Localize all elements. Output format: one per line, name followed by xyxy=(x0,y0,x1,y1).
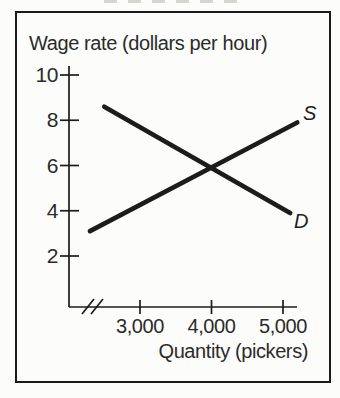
y-tick-label: 4 xyxy=(22,198,58,224)
y-tick-label: 8 xyxy=(22,107,58,133)
demand-curve xyxy=(104,107,290,213)
y-tick-label: 2 xyxy=(22,243,58,269)
figure-panel: Wage rate (dollars per hour) 108642 3,00… xyxy=(0,0,340,398)
x-tick-label: 4,000 xyxy=(172,315,252,338)
y-axis-title: Wage rate (dollars per hour) xyxy=(29,32,267,55)
x-tick-label: 5,000 xyxy=(243,315,323,338)
supply-curve-label: S xyxy=(303,102,316,125)
y-tick-label: 6 xyxy=(22,153,58,179)
x-tick-label: 3,000 xyxy=(100,315,180,338)
supply-curve xyxy=(90,123,297,232)
demand-curve-label: D xyxy=(294,210,308,233)
y-tick-label: 10 xyxy=(22,62,58,88)
x-axis-title: Quantity (pickers) xyxy=(60,340,308,363)
